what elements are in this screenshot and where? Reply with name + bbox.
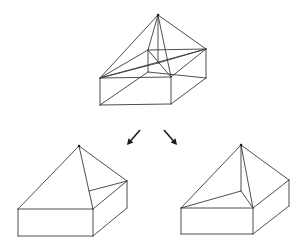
edge-fb-rb	[253, 206, 289, 234]
edge-lt-ft	[100, 77, 171, 78]
arrows-group	[127, 130, 177, 145]
edge-rt-bt	[148, 49, 206, 50]
arrow-shaft	[131, 130, 140, 140]
diagram-canvas	[0, 0, 302, 248]
edge-apex-lt	[18, 146, 79, 209]
edge-ft-rt	[171, 49, 206, 77]
edge-fb-rb	[93, 208, 127, 236]
edge-apex-rt	[79, 146, 127, 181]
edge-lb-fb	[100, 104, 171, 105]
edge-apex-ft	[79, 146, 93, 209]
edge-apex-ft	[158, 15, 171, 77]
edge-bt-lt	[100, 50, 148, 78]
edge-ft-rt	[253, 180, 289, 208]
arrow-left	[127, 130, 140, 145]
apex-vertex	[78, 145, 81, 148]
edge-lb-bb	[100, 72, 148, 105]
edge-p-lt	[181, 191, 241, 208]
edge-apex-lt	[181, 145, 241, 208]
figure-left	[18, 145, 127, 236]
edge-lt-c	[100, 63, 158, 78]
arrow-shaft	[164, 130, 173, 140]
arrow-right	[164, 130, 177, 145]
figure-right	[181, 144, 289, 234]
figure-top	[100, 14, 206, 105]
apex-vertex	[157, 14, 160, 17]
edge-apex-rt	[158, 15, 206, 49]
edge-apex-rt	[241, 145, 289, 180]
figures-group	[18, 14, 289, 236]
apex-vertex	[240, 144, 243, 147]
edge-apex-ft	[241, 145, 253, 208]
edge-fb-rb	[171, 78, 206, 104]
